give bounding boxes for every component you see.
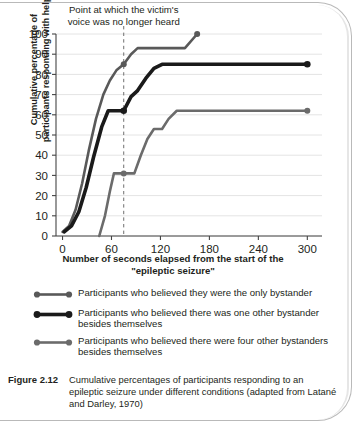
figure-caption: Figure 2.12 Cumulative percentages of pa… — [8, 374, 338, 409]
chart-legend: Participants who believed they were the … — [32, 287, 332, 363]
y-axis-tick-label: 10 — [35, 210, 48, 222]
y-axis-tick-label: 40 — [35, 149, 48, 161]
chart-figure: 0102030405060708090100060120180240300Poi… — [0, 0, 330, 288]
y-axis-tick-label: 30 — [35, 170, 48, 182]
series-line-2 — [64, 64, 307, 232]
legend-label-1: Participants who believed they were the … — [76, 287, 312, 298]
y-axis-tick-label: 0 — [42, 230, 48, 242]
annotation-label: voice was no longer heard — [68, 16, 180, 27]
x-axis-tick-label: 300 — [298, 243, 317, 255]
legend-line-swatch-1 — [32, 288, 76, 301]
y-axis-title-text: Cumulative percentage of participants re… — [29, 0, 51, 142]
legend-item-only-bystander: Participants who believed they were the … — [32, 287, 332, 301]
legend-label-2: Participants who believed there was one … — [76, 307, 332, 330]
series-point-marker — [121, 170, 127, 176]
y-axis-tick-label: 20 — [35, 190, 48, 202]
series-point-marker — [194, 31, 200, 37]
legend-item-one-other-bystander: Participants who believed there was one … — [32, 307, 332, 330]
series-point-marker — [121, 61, 127, 67]
series-line-3 — [99, 111, 307, 236]
legend-label-3: Participants who believed there were fou… — [76, 335, 332, 358]
figure-number: Figure 2.12 — [8, 374, 69, 386]
page-sheet: 0102030405060708090100060120180240300Poi… — [0, 0, 359, 427]
figure-caption-text: Cumulative percentages of participants r… — [69, 374, 338, 409]
y-axis-title: Cumulative percentage of participants re… — [29, 0, 52, 150]
series-point-marker — [304, 61, 311, 68]
series-point-marker — [120, 107, 127, 114]
x-axis-title-text: Number of seconds elapsed from the start… — [62, 253, 283, 276]
series-point-marker — [304, 108, 310, 114]
x-axis-title: Number of seconds elapsed from the start… — [58, 253, 288, 276]
annotation-label: Point at which the victim's — [69, 4, 179, 15]
legend-line-swatch-2 — [32, 308, 76, 321]
legend-item-four-other-bystanders: Participants who believed there were fou… — [32, 335, 332, 358]
legend-line-swatch-3 — [32, 336, 76, 349]
